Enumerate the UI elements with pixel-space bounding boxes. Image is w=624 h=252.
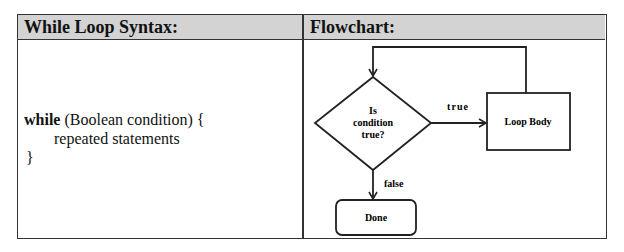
loop-body-label: Loop Body — [505, 116, 552, 127]
done-label: Done — [365, 212, 388, 223]
decision-line-2: condition — [353, 117, 393, 128]
decision-line-3: true? — [362, 129, 385, 140]
false-label: false — [384, 178, 404, 189]
decision-line-1: Is — [369, 105, 377, 116]
flowchart-diagram: Is condition true? true Loop Body false … — [0, 0, 624, 252]
loop-back-arrow — [373, 47, 526, 93]
true-label: true — [447, 101, 469, 112]
